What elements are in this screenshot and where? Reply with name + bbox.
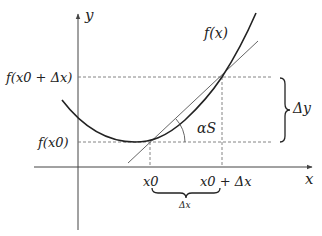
x-tick-left-label: x0 <box>143 174 159 189</box>
angle-arc <box>176 119 185 142</box>
angle-label: αS <box>197 120 216 136</box>
y-tick-lower-label: f(x0) <box>37 135 69 150</box>
delta-x-brace <box>152 188 220 198</box>
y-tick-upper-label: f(x0 + Δx) <box>5 70 72 85</box>
delta-y-brace <box>280 78 290 142</box>
x-tick-right-label: x0 + Δx <box>200 174 252 189</box>
delta-x-label: Δx <box>178 200 191 210</box>
secant-diagram: y x f(x) f(x0 + Δx) f(x0) x0 x0 + Δx αS … <box>0 0 322 236</box>
delta-y-label: Δy <box>292 100 312 116</box>
guide-lines <box>78 77 272 167</box>
curve-label: f(x) <box>203 25 228 41</box>
x-axis-label: x <box>305 170 314 188</box>
y-axis-label: y <box>84 6 94 24</box>
secant-line <box>128 41 258 163</box>
